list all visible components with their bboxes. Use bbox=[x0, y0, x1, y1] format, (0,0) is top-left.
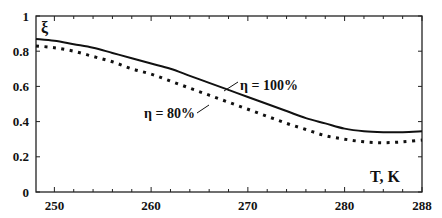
annotation-layer: η = 100% η = 80% bbox=[144, 78, 298, 121]
y-tick-label: 1 bbox=[23, 9, 30, 24]
annotation-leader-80 bbox=[197, 105, 209, 113]
x-tick-label: 260 bbox=[141, 198, 161, 213]
series-eta-80-line bbox=[36, 46, 422, 143]
y-tick-label: 0.2 bbox=[13, 149, 29, 164]
x-tick-label: 270 bbox=[238, 198, 258, 213]
series-layer bbox=[36, 39, 422, 143]
annotation-leader-100 bbox=[224, 82, 238, 91]
y-axis-title: ξ bbox=[41, 19, 49, 37]
x-tick-label: 288 bbox=[412, 198, 432, 213]
x-tick-label: 250 bbox=[45, 198, 65, 213]
annotation-eta-100: η = 100% bbox=[240, 78, 298, 93]
annotation-eta-80: η = 80% bbox=[144, 106, 195, 121]
y-tick-label: 0 bbox=[23, 185, 30, 200]
plot-frame bbox=[36, 16, 422, 192]
x-tick-label: 280 bbox=[335, 198, 355, 213]
line-chart: 250260270280288 00.20.40.60.81 η = 100% … bbox=[0, 0, 442, 218]
y-tick-label: 0.8 bbox=[13, 44, 30, 59]
y-tick-label: 0.6 bbox=[13, 79, 30, 94]
y-axis: 00.20.40.60.81 bbox=[13, 9, 422, 200]
series-eta-100-line bbox=[36, 39, 422, 132]
y-tick-label: 0.4 bbox=[13, 114, 30, 129]
x-axis-title: T, K bbox=[370, 168, 400, 185]
plot-border bbox=[36, 16, 422, 192]
